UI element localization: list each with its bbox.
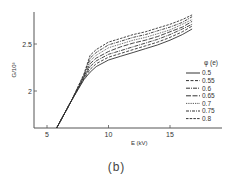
y-tick-label: 2.5: [22, 41, 32, 48]
x-axis-label: E (kV): [131, 140, 148, 146]
legend-label: 0.55: [202, 77, 215, 84]
line-chart: 5101522.5E (kV)G/10³ φ (e)0.50.550.60.65…: [0, 0, 233, 160]
series-line-0.5: [57, 29, 192, 128]
figure-caption: (b): [0, 160, 233, 174]
legend: φ (e)0.50.550.60.650.70.750.8: [186, 59, 218, 122]
series-line-0.75: [57, 17, 192, 128]
y-tick-label: 2: [28, 88, 32, 95]
legend-label: 0.8: [202, 115, 211, 122]
series-line-0.7: [57, 20, 192, 128]
x-tick-label: 5: [45, 131, 49, 138]
legend-title: φ (e): [204, 59, 218, 67]
legend-label: 0.6: [202, 85, 211, 92]
legend-label: 0.65: [202, 92, 215, 99]
axes: 5101522.5E (kV)G/10³: [11, 12, 222, 146]
series-line-0.8: [57, 15, 192, 128]
legend-label: 0.75: [202, 107, 215, 114]
x-tick-label: 15: [166, 131, 174, 138]
y-axis-label: G/10³: [11, 62, 17, 77]
legend-label: 0.5: [202, 69, 211, 76]
series-group: [57, 15, 192, 128]
series-line-0.55: [57, 26, 192, 128]
x-tick-label: 10: [105, 131, 113, 138]
legend-label: 0.7: [202, 100, 211, 107]
